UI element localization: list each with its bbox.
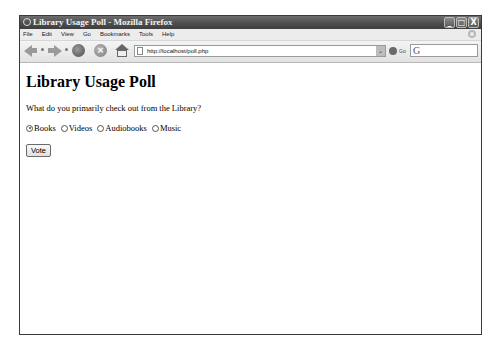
menu-help[interactable]: Help xyxy=(162,29,174,40)
radio-videos[interactable] xyxy=(61,125,68,132)
forward-button[interactable] xyxy=(48,44,62,58)
menu-go[interactable]: Go xyxy=(83,29,91,40)
home-icon-body xyxy=(117,50,127,57)
page-content: Library Usage Poll What do you primarily… xyxy=(20,63,481,334)
radio-music[interactable] xyxy=(152,125,159,132)
menu-bar: File Edit View Go Bookmarks Tools Help xyxy=(20,29,481,41)
menu-bookmarks[interactable]: Bookmarks xyxy=(100,29,130,40)
option-audiobooks[interactable]: Audiobooks xyxy=(97,123,147,133)
page-title: Library Usage Poll xyxy=(26,73,481,91)
close-button[interactable]: X xyxy=(468,17,479,28)
option-label: Videos xyxy=(69,123,93,133)
home-button[interactable] xyxy=(115,44,129,58)
url-history-dropdown[interactable]: ⌄ xyxy=(376,46,385,56)
google-search-icon[interactable]: G xyxy=(413,45,420,56)
browser-window: Library Usage Poll - Mozilla Firefox _ □… xyxy=(19,15,482,335)
menu-edit[interactable]: Edit xyxy=(42,29,52,40)
url-text: http://localhost/poll.php xyxy=(147,48,208,54)
stop-button[interactable]: × xyxy=(94,44,107,57)
navigation-toolbar: × http://localhost/poll.php ⌄ Go G xyxy=(20,41,481,63)
go-button[interactable]: Go xyxy=(399,45,406,57)
option-music[interactable]: Music xyxy=(152,123,181,133)
maximize-button[interactable]: □ xyxy=(456,17,467,28)
back-history-dropdown[interactable] xyxy=(41,48,44,51)
url-bar[interactable]: http://localhost/poll.php ⌄ xyxy=(134,45,386,57)
radio-books[interactable] xyxy=(26,125,33,132)
back-arrow-stem xyxy=(30,48,37,53)
option-label: Audiobooks xyxy=(105,123,147,133)
firefox-icon xyxy=(23,18,31,26)
forward-history-dropdown[interactable] xyxy=(65,48,68,51)
minimize-button[interactable]: _ xyxy=(444,17,455,28)
poll-question: What do you primarily check out from the… xyxy=(26,103,481,113)
page-icon xyxy=(137,47,143,55)
back-button[interactable] xyxy=(24,44,38,58)
option-videos[interactable]: Videos xyxy=(61,123,93,133)
radio-audiobooks[interactable] xyxy=(97,125,104,132)
poll-options: Books Videos Audiobooks Music xyxy=(26,123,481,133)
menu-tools[interactable]: Tools xyxy=(139,29,153,40)
window-title: Library Usage Poll - Mozilla Firefox xyxy=(33,17,173,27)
reload-button[interactable] xyxy=(72,44,85,57)
go-icon[interactable] xyxy=(389,47,397,55)
menu-view[interactable]: View xyxy=(61,29,74,40)
menu-file[interactable]: File xyxy=(23,29,33,40)
throbber-icon xyxy=(468,30,476,38)
search-input[interactable]: G xyxy=(410,44,478,57)
option-books[interactable]: Books xyxy=(26,123,56,133)
option-label: Music xyxy=(160,123,181,133)
title-bar: Library Usage Poll - Mozilla Firefox _ □… xyxy=(20,16,481,29)
forward-arrow-icon xyxy=(54,45,62,57)
vote-button[interactable]: Vote xyxy=(26,144,51,157)
option-label: Books xyxy=(34,123,56,133)
window-controls: _ □ X xyxy=(444,17,479,28)
